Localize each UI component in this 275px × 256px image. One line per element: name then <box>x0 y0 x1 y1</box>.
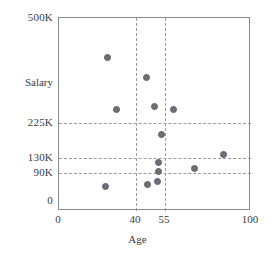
data-point <box>191 165 198 172</box>
gridline-130k <box>59 158 251 159</box>
x-axis-title: Age <box>0 234 275 245</box>
x-tick-100: 100 <box>242 214 259 225</box>
gridline-age-55 <box>165 18 166 211</box>
y-tick-225k: 225K <box>28 117 53 128</box>
scatter-chart: 500K Salary 225K 130K 90K 0 0 40 55 100 … <box>0 0 275 256</box>
data-point <box>155 159 162 166</box>
data-point <box>154 178 161 185</box>
data-point <box>158 131 165 138</box>
data-point <box>113 106 120 113</box>
y-tick-130k: 130K <box>28 152 53 163</box>
x-tick-0: 0 <box>55 214 61 225</box>
data-point <box>170 106 177 113</box>
y-axis-tick-labels: 500K Salary 225K 130K 90K 0 <box>0 0 53 256</box>
data-point <box>220 151 227 158</box>
gridline-age-40 <box>136 18 137 211</box>
data-point <box>104 54 111 61</box>
x-tick-55: 55 <box>159 214 170 225</box>
x-tick-40: 40 <box>130 214 141 225</box>
y-tick-0: 0 <box>47 195 53 206</box>
data-point <box>155 168 162 175</box>
data-point <box>102 183 109 190</box>
data-point <box>143 74 150 81</box>
y-tick-500k: 500K <box>28 12 53 23</box>
y-axis-title: Salary <box>25 77 53 88</box>
data-point <box>144 181 151 188</box>
plot-area <box>58 17 250 210</box>
y-tick-90k: 90K <box>33 167 53 178</box>
gridline-225k <box>59 123 251 124</box>
data-point <box>151 103 158 110</box>
